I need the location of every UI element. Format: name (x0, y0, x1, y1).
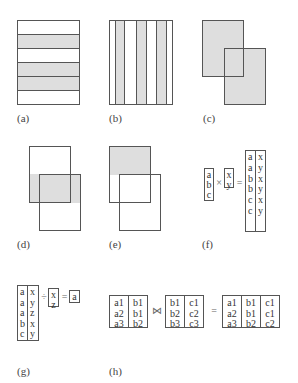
panel-g-left-relation: a a a b c x y z x y (17, 285, 39, 341)
equals-operator: = (209, 306, 219, 316)
equals-operator: = (60, 292, 69, 302)
column: b1 b1 b2 (128, 296, 147, 327)
cell: b3 (170, 319, 180, 330)
cell: a (248, 163, 253, 174)
row-1 (17, 20, 80, 35)
cell: y (258, 163, 263, 174)
row-2-shaded (17, 34, 80, 49)
equals-operator: = (235, 178, 244, 188)
column: x y x y x y (255, 151, 265, 231)
panel-g-result-relation: a (69, 290, 80, 303)
panel-h-right-relation: b1 b2 b3 c1 c2 c3 (165, 295, 204, 328)
cell: a3 (227, 319, 236, 330)
cell: c (20, 329, 25, 340)
cell: y (30, 329, 35, 340)
panel-f-left-relation: a b c (204, 168, 214, 201)
panel-b-label: (b) (109, 112, 122, 124)
cell: a (72, 292, 76, 302)
cell: c3 (189, 319, 198, 330)
panel-a-figure (17, 20, 80, 105)
row-6 (17, 90, 80, 105)
panel-d-rect-2 (39, 174, 81, 231)
panel-h-label: (h) (109, 365, 122, 377)
cell: c1 (265, 298, 274, 309)
cell: c1 (189, 298, 198, 309)
row-5-shaded (17, 76, 80, 91)
panel-f-result-relation: a a b b c c x y x y x y (245, 150, 266, 232)
column: b1 b1 b2 (241, 296, 260, 327)
column-6-shaded (156, 21, 167, 104)
row-4-shaded (17, 62, 80, 77)
divide-operator: ÷ (40, 292, 48, 302)
panel-f-label: (f) (202, 238, 213, 250)
join-operator: ⋈ (152, 306, 162, 316)
column: a1 a2 a3 (223, 296, 241, 327)
row-3 (17, 48, 80, 63)
panel-f-right-relation: x y (224, 168, 234, 188)
cell: a1 (114, 298, 123, 309)
panel-g-right-relation: x z (48, 288, 59, 307)
cell: a1 (227, 298, 236, 309)
cell: a (20, 308, 25, 319)
cell: c (207, 190, 211, 200)
cell: a (20, 287, 25, 298)
column: c1 c2 c3 (184, 296, 203, 327)
cell: b1 (133, 298, 143, 309)
cell: b1 (170, 298, 180, 309)
cell: y (258, 206, 263, 217)
cell: b1 (246, 298, 256, 309)
cell: y (227, 180, 232, 190)
column-2-shaded (115, 21, 125, 104)
panel-e-label: (e) (109, 238, 121, 250)
column: a1 a2 a3 (110, 296, 128, 327)
cell: x (30, 287, 35, 298)
cell: b2 (246, 319, 256, 330)
panel-b-figure (109, 20, 173, 105)
panel-a-label: (a) (17, 112, 29, 124)
panel-h-result-relation: a1 a2 a3 b1 b1 b2 c1 c1 c2 (222, 295, 280, 328)
column-4-shaded (136, 21, 147, 104)
column: b1 b2 b3 (166, 296, 184, 327)
panel-e-rect-2 (119, 174, 161, 231)
times-operator: × (215, 178, 223, 188)
column: x y z x y (27, 286, 37, 340)
column: a a a b c (18, 286, 27, 340)
cell: a3 (114, 319, 123, 330)
panel-d-label: (d) (17, 238, 30, 250)
column: c1 c1 c2 (260, 296, 279, 327)
panel-g-label: (g) (17, 365, 30, 377)
panel-c-label: (c) (203, 112, 215, 124)
panel-c-rect-1-outline (202, 20, 244, 77)
cell: z (51, 300, 55, 310)
panel-h-left-relation: a1 a2 a3 b1 b1 b2 (109, 295, 148, 328)
cell: z (30, 308, 35, 319)
column: a a b b c c (246, 151, 255, 231)
cell: c2 (265, 319, 274, 330)
cell: b2 (133, 319, 143, 330)
cell: c (248, 206, 253, 217)
